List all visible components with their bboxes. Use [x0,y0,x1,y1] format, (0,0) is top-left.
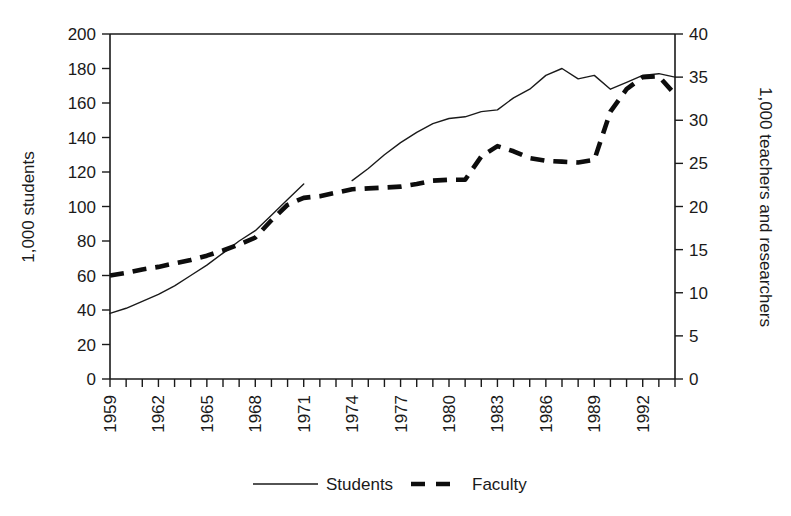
chart-figure: 020406080100120140160180200 051015202530… [0,0,791,516]
y-tick-label: 180 [68,60,96,79]
y2-tick-label: 40 [689,25,708,44]
chart-legend: Students Faculty [253,475,527,494]
y2-tick-label: 15 [689,241,708,260]
y2-tick-label: 0 [689,370,698,389]
x-tick-label: 1959 [101,395,120,433]
y-axis-title: 1,000 students [19,151,38,263]
y-tick-label: 0 [87,370,96,389]
series-line-faculty [110,76,675,275]
x-tick-label: 1971 [295,395,314,433]
y-tick-label: 60 [77,267,96,286]
series-line-students [110,69,675,314]
y2-tick-label: 30 [689,111,708,130]
y-tick-label: 120 [68,163,96,182]
x-tick-label: 1986 [537,395,556,433]
y-tick-label: 40 [77,301,96,320]
y2-axis-title: 1,000 teachers and researchers [756,87,775,327]
x-tick-label: 1977 [392,395,411,433]
y2-tick-label: 25 [689,154,708,173]
y2-tick-label: 5 [689,327,698,346]
y-tick-label: 140 [68,129,96,148]
chart-svg: 020406080100120140160180200 051015202530… [0,0,791,516]
x-tick-label: 1962 [149,395,168,433]
y-tick-label: 100 [68,198,96,217]
y-tick-label: 80 [77,232,96,251]
axis-frame [110,34,675,379]
y2-tick-label: 20 [689,198,708,217]
y2-tick-label: 10 [689,284,708,303]
y-tick-label: 20 [77,336,96,355]
x-axis-ticks [110,379,675,387]
x-tick-label: 1989 [585,395,604,433]
y-axis-tick-labels: 020406080100120140160180200 [68,25,96,389]
legend-label-faculty: Faculty [472,475,527,494]
y-tick-label: 160 [68,94,96,113]
y-tick-label: 200 [68,25,96,44]
x-tick-label: 1980 [440,395,459,433]
x-axis-tick-labels: 1959196219651968197119741977198019831986… [101,395,653,433]
y2-axis-ticks [675,34,683,379]
x-tick-label: 1968 [246,395,265,433]
x-tick-label: 1992 [634,395,653,433]
x-tick-label: 1974 [343,395,362,433]
x-tick-label: 1983 [488,395,507,433]
x-tick-label: 1965 [198,395,217,433]
legend-label-students: Students [326,475,393,494]
y2-axis-tick-labels: 0510152025303540 [689,25,708,389]
y-axis-ticks [102,34,110,379]
y2-tick-label: 35 [689,68,708,87]
